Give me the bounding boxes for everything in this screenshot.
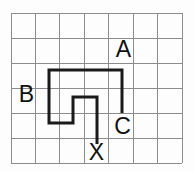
grid-path-diagram: ABCX [0, 0, 194, 172]
label-B: B [19, 81, 34, 107]
label-C: C [114, 113, 131, 139]
diagram-svg: ABCX [0, 0, 194, 172]
label-X: X [89, 139, 104, 165]
label-A: A [116, 36, 132, 62]
